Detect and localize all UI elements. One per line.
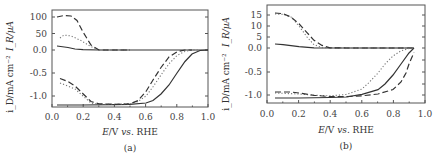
svg-text:0.4: 0.4 <box>107 112 122 122</box>
y-tick-labels-b: 15 10 5 0.0 -0.5 -1.0 <box>245 10 263 100</box>
ring-a-dashed <box>57 16 130 51</box>
y-axis-label-ring-b: I_R/µA <box>221 16 232 48</box>
y-tick-labels-a: 100 50 0.0 -0.5 -1.0 <box>30 12 48 101</box>
ring-b-dotted <box>275 14 414 48</box>
svg-text:0.6: 0.6 <box>355 109 370 119</box>
svg-text:0.0: 0.0 <box>33 45 48 55</box>
panel-a: 0.0 0.2 0.4 0.6 0.8 1.0 100 50 0.0 -0.5 … <box>5 10 215 153</box>
svg-text:-0.5: -0.5 <box>30 68 48 78</box>
svg-text:0.0: 0.0 <box>45 112 60 122</box>
y-axis-label-ring-a: I_R/µA <box>5 20 16 52</box>
svg-text:0.0: 0.0 <box>260 109 275 119</box>
x-axis-label-a: E/V vs. RHE <box>101 127 158 137</box>
svg-text:-1.0: -1.0 <box>245 90 263 100</box>
panel-b: 0.0 0.2 0.4 0.6 0.8 1.0 15 10 5 0.0 -0.5… <box>221 5 432 151</box>
plot-frame-a <box>52 10 208 107</box>
svg-text:0.2: 0.2 <box>76 112 90 122</box>
disk-a-dotted <box>60 50 200 104</box>
svg-text:-0.5: -0.5 <box>245 67 263 77</box>
plot-frame-b <box>267 5 425 103</box>
y-axis-label-disk-a: i_D/mA cm⁻² <box>5 55 16 113</box>
svg-text:0.0: 0.0 <box>248 43 263 53</box>
svg-text:50: 50 <box>36 29 48 39</box>
svg-text:-1.0: -1.0 <box>30 91 48 101</box>
panel-label-b: (b) <box>340 141 353 151</box>
disk-a-solid <box>57 50 208 105</box>
svg-text:1.0: 1.0 <box>201 112 216 122</box>
svg-text:0.8: 0.8 <box>386 109 401 119</box>
svg-text:15: 15 <box>251 10 263 20</box>
svg-text:0.4: 0.4 <box>323 109 338 119</box>
svg-text:100: 100 <box>30 12 47 22</box>
panel-label-a: (a) <box>124 143 136 153</box>
x-tick-labels-a: 0.0 0.2 0.4 0.6 0.8 1.0 <box>45 112 216 122</box>
svg-text:0.2: 0.2 <box>291 109 305 119</box>
x-ticks-b <box>267 15 425 103</box>
figure: 0.0 0.2 0.4 0.6 0.8 1.0 100 50 0.0 -0.5 … <box>0 0 438 158</box>
x-axis-label-b: E/V vs. RHE <box>317 125 374 135</box>
svg-text:10: 10 <box>251 21 263 31</box>
svg-text:0.8: 0.8 <box>170 112 185 122</box>
ring-b-dashed <box>275 13 414 48</box>
svg-text:1.0: 1.0 <box>418 109 433 119</box>
x-tick-labels-b: 0.0 0.2 0.4 0.6 0.8 1.0 <box>260 109 433 119</box>
svg-text:5: 5 <box>256 32 262 42</box>
disk-b-solid <box>275 48 414 98</box>
y-axis-label-disk-b: i_D/mA cm⁻² <box>221 53 232 111</box>
svg-text:0.6: 0.6 <box>138 112 153 122</box>
disk-a-dashed <box>60 50 192 104</box>
